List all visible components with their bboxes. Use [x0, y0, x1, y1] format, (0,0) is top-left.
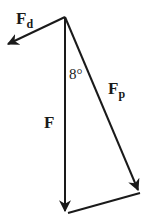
angle-label: 8° — [69, 66, 83, 82]
label-fd: Fd — [16, 9, 33, 31]
label-f: F — [44, 113, 54, 132]
force-diagram: Fd F Fp 8° — [0, 0, 145, 215]
closing-segment — [68, 193, 140, 213]
label-fp: Fp — [108, 79, 125, 101]
vector-fp — [65, 17, 138, 190]
